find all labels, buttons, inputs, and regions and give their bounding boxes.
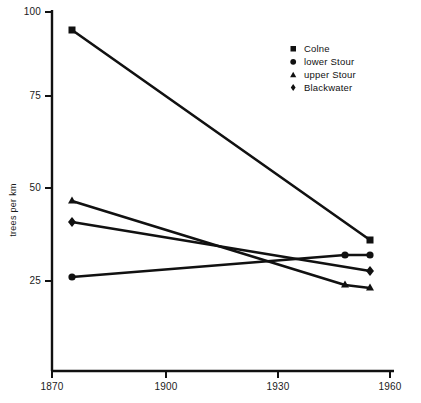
legend-label-blackwater: Blackwater <box>304 82 352 93</box>
y-tick-label-100: 100 <box>0 6 41 17</box>
triangle-marker-icon <box>288 69 299 80</box>
y-tick-label-50: 50 <box>0 182 41 193</box>
circle-marker-icon <box>288 56 299 67</box>
legend-label-lower-stour: lower Stour <box>304 56 354 67</box>
square-marker-icon <box>288 43 299 54</box>
x-tick-label-1900: 1900 <box>142 381 190 392</box>
legend-label-colne: Colne <box>304 43 330 54</box>
chart-canvas <box>0 0 421 403</box>
series-blackwater <box>68 217 374 276</box>
y-tick-label-25: 25 <box>0 275 41 286</box>
legend-item-colne: Colne <box>288 42 356 55</box>
x-tick-label-1870: 1870 <box>28 381 76 392</box>
legend-item-blackwater: Blackwater <box>288 81 356 94</box>
series-lower-stour <box>68 251 373 280</box>
line-chart-figure: 100 75 50 25 1870 1900 1930 1960 trees p… <box>0 0 421 403</box>
diamond-marker-icon <box>288 82 299 93</box>
x-tick-label-1960: 1960 <box>366 381 414 392</box>
legend-label-upper-stour: upper Stour <box>304 69 356 80</box>
chart-legend: Colne lower Stour upper Stour Blackwater <box>288 42 356 94</box>
x-tick-label-1930: 1930 <box>254 381 302 392</box>
y-axis-title: trees per km <box>8 175 18 245</box>
legend-item-lower-stour: lower Stour <box>288 55 356 68</box>
y-tick-label-75: 75 <box>0 90 41 101</box>
legend-item-upper-stour: upper Stour <box>288 68 356 81</box>
